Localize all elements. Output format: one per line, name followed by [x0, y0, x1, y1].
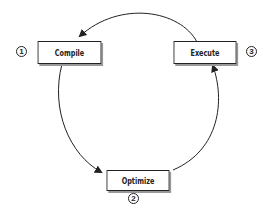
step-badge-3: 3 — [246, 46, 257, 57]
arrow-optimize-to-execute — [173, 66, 219, 170]
step-number: 1 — [19, 47, 23, 56]
node-label: Optimize — [122, 176, 155, 186]
node-label: Compile — [55, 48, 85, 58]
arrow-execute-to-compile — [80, 13, 197, 42]
node-label: Execute — [190, 48, 219, 58]
step-number: 3 — [249, 47, 253, 56]
step-number: 2 — [131, 194, 135, 203]
node-optimize: Optimize — [107, 170, 170, 191]
node-compile: Compile — [38, 41, 102, 64]
step-badge-1: 1 — [16, 46, 27, 57]
node-execute: Execute — [174, 41, 237, 64]
arrow-compile-to-optimize — [58, 64, 101, 172]
step-badge-2: 2 — [128, 193, 139, 204]
